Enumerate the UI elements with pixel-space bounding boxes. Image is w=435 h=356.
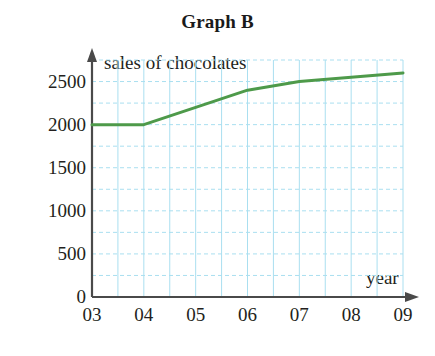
x-tick-label: 03: [70, 305, 114, 324]
x-tick-label: 08: [329, 305, 373, 324]
x-tick-label: 04: [122, 305, 166, 324]
x-tick-label: 09: [381, 305, 425, 324]
x-axis-tick-labels: 03040506070809: [0, 0, 435, 356]
chart-figure: Graph B sales of chocolates year 0500100…: [0, 0, 435, 356]
x-tick-label: 06: [226, 305, 270, 324]
x-tick-label: 07: [277, 305, 321, 324]
x-tick-label: 05: [174, 305, 218, 324]
